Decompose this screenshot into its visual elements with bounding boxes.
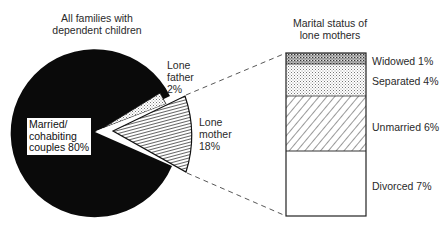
stacked-bar xyxy=(286,53,366,216)
label-separated: Separated 4% xyxy=(372,75,439,87)
bar-segment-unmarried xyxy=(286,96,366,151)
label-unmarried: Unmarried 6% xyxy=(372,121,439,133)
bar-segment-widowed xyxy=(286,53,366,64)
bar-segment-divorced xyxy=(286,151,366,216)
pie-title: All families with dependent children xyxy=(42,12,152,36)
connector-line-bottom xyxy=(187,173,286,216)
label-lone-mother: Lone mother 18% xyxy=(199,116,232,152)
label-divorced: Divorced 7% xyxy=(372,180,432,192)
bar-title: Marital status of lone mothers xyxy=(280,17,380,41)
label-lone-father: Lone father 2% xyxy=(167,59,194,95)
label-widowed: Widowed 1% xyxy=(372,55,433,67)
bar-segment-separated xyxy=(286,64,366,96)
label-married-cohabiting: Married/ cohabiting couples 80% xyxy=(27,118,91,155)
connector-line-top xyxy=(186,53,286,95)
